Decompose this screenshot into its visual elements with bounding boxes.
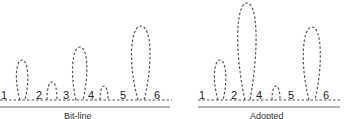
diagram-canvas	[0, 0, 352, 119]
left-label-5: 5	[120, 90, 126, 101]
right-caption: Adopted	[250, 112, 284, 119]
left-loop-5	[132, 26, 151, 100]
right-label-1: 1	[199, 90, 205, 101]
right-loop-2	[238, 3, 256, 100]
left-label-1: 1	[1, 90, 7, 101]
left-label-2: 2	[36, 90, 42, 101]
left-loop-1	[16, 60, 27, 100]
right-loop-4	[303, 27, 320, 100]
right-label-5: 5	[288, 90, 294, 101]
left-loop-2	[47, 82, 57, 100]
right-loop-1	[214, 60, 225, 100]
left-loop-4	[100, 86, 108, 100]
left-label-6: 6	[154, 90, 160, 101]
right-label-6: 6	[323, 90, 329, 101]
left-caption: Bit-line	[64, 112, 92, 119]
right-loop-3	[272, 86, 280, 100]
left-loop-3	[73, 47, 87, 100]
left-label-3: 3	[63, 90, 69, 101]
right-label-2: 2	[231, 90, 237, 101]
left-label-4: 4	[88, 90, 94, 101]
right-label-4: 4	[256, 90, 262, 101]
